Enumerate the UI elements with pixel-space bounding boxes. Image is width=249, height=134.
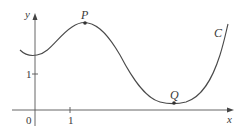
curve-c xyxy=(20,23,228,104)
curve-diagram xyxy=(0,0,249,134)
y-tick-1-label: 1 xyxy=(26,69,32,80)
x-axis-arrow-icon xyxy=(227,108,234,113)
point-q-label: Q xyxy=(170,89,179,101)
y-axis-arrow-icon xyxy=(33,13,38,20)
curve-c-label: C xyxy=(214,27,222,39)
x-tick-1-label: 1 xyxy=(68,115,74,126)
point-p-label: P xyxy=(81,9,88,21)
y-axis-label: y xyxy=(25,9,30,20)
x-axis-label: x xyxy=(227,114,232,125)
origin-label: 0 xyxy=(26,115,32,126)
